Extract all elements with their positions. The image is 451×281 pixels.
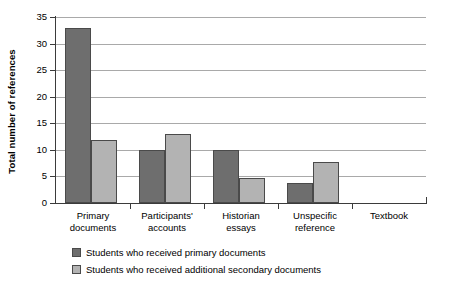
y-tick-label: 20: [36, 92, 47, 102]
gridline: [56, 44, 426, 45]
x-tick-mark: [278, 204, 279, 209]
legend-swatch-icon: [72, 248, 81, 257]
bar: [313, 162, 339, 203]
y-tick-label: 0: [42, 198, 47, 208]
y-tick-label: 15: [36, 118, 47, 128]
y-tick-label: 35: [36, 12, 47, 22]
x-tick-mark: [204, 204, 205, 209]
gridline: [56, 97, 426, 98]
y-axis-title: Total number of references: [2, 18, 20, 204]
bar: [287, 183, 313, 203]
bar: [65, 28, 91, 203]
y-axis-title-text: Total number of references: [6, 49, 17, 173]
x-axis-end-cap: [426, 197, 427, 204]
legend-label: Students who received additional seconda…: [86, 264, 321, 275]
x-tick-mark: [130, 204, 131, 209]
bar: [139, 150, 165, 203]
bar: [91, 140, 117, 203]
x-category-label: Historian essays: [204, 210, 278, 233]
y-tick-label: 10: [36, 145, 47, 155]
gridline: [56, 70, 426, 71]
chart-legend: Students who received primary documentsS…: [72, 245, 402, 279]
legend-label: Students who received primary documents: [86, 247, 266, 258]
legend-item: Students who received additional seconda…: [72, 262, 402, 277]
x-category-label: Unspecific reference: [278, 210, 352, 233]
legend-swatch-icon: [72, 265, 81, 274]
gridline: [56, 123, 426, 124]
bar: [239, 178, 265, 204]
x-tick-mark: [352, 204, 353, 209]
y-tick-label: 25: [36, 65, 47, 75]
gridline: [56, 17, 426, 18]
x-category-label: Primary documents: [56, 210, 130, 233]
bar-chart-figure: Total number of references 0510152025303…: [0, 0, 451, 281]
legend-item: Students who received primary documents: [72, 245, 402, 260]
bar: [213, 150, 239, 203]
x-axis-line: [55, 203, 427, 204]
y-tick-label: 30: [36, 39, 47, 49]
x-category-label: Participants' accounts: [130, 210, 204, 233]
x-category-label: Textbook: [352, 210, 426, 222]
bar: [165, 134, 191, 203]
plot-area: [56, 17, 426, 203]
y-tick-label: 5: [42, 171, 47, 181]
